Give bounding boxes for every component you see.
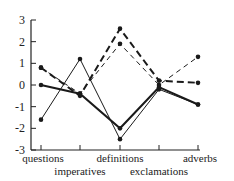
data-point: [39, 65, 44, 70]
data-point: [196, 55, 201, 60]
axis-labels: 3210-1-2-3questionsimperativesdefinition…: [15, 13, 217, 177]
y-tick-label: 1: [19, 56, 25, 70]
category-label-adverbs: adverbs: [183, 152, 217, 164]
series-line: [41, 44, 198, 94]
category-label-imperatives: imperatives: [54, 165, 105, 177]
y-tick-label: -2: [15, 121, 25, 135]
y-tick-label: 0: [19, 78, 25, 92]
category-label-questions: questions: [22, 152, 64, 164]
series-thin-dashed: [39, 42, 201, 96]
data-point: [196, 102, 201, 107]
data-point: [118, 42, 123, 47]
y-tick-label: 3: [19, 13, 25, 27]
data-point: [118, 137, 123, 142]
y-tick-label: 2: [19, 35, 25, 49]
data-point: [118, 26, 123, 31]
y-tick-label: -1: [15, 100, 25, 114]
series-line: [41, 29, 198, 96]
data-point: [39, 83, 44, 88]
category-label-definitions: definitions: [96, 152, 143, 164]
series-thick-solid: [39, 83, 201, 131]
series-thick-dashed: [39, 26, 201, 98]
data-point: [78, 57, 83, 62]
data-point: [196, 81, 201, 86]
data-point: [78, 91, 83, 96]
series-line: [41, 85, 198, 128]
line-chart: 3210-1-2-3questionsimperativesdefinition…: [0, 0, 234, 181]
category-label-exclamations: exclamations: [130, 165, 188, 177]
data-point: [118, 126, 123, 131]
data-point: [39, 117, 44, 122]
series-layer: [39, 26, 201, 141]
data-point: [157, 87, 162, 92]
data-point: [157, 78, 162, 83]
